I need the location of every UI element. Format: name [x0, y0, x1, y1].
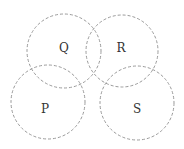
label-q: Q — [59, 41, 69, 55]
venn-diagram: Q R P S — [0, 0, 184, 149]
label-p: P — [41, 102, 49, 116]
label-s: S — [133, 102, 141, 116]
label-r: R — [116, 41, 126, 55]
